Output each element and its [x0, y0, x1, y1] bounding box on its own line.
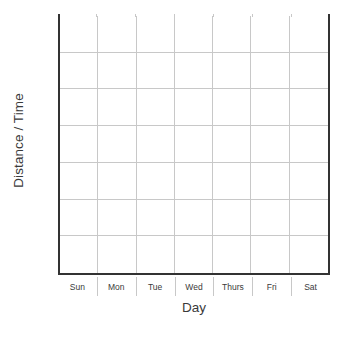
x-tick-label: Tue [136, 277, 175, 296]
x-tick-label-text: Sun [70, 282, 85, 292]
y-axis-title: Distance / Time [0, 0, 36, 280]
axis-tick-top [291, 14, 292, 17]
x-axis-tick-labels: Sun Mon Tue Wed Thurs Fri Sat [58, 277, 330, 296]
gridline-horizontal [60, 52, 328, 53]
blank-grid-chart: Distance / Time Sun Mon Tue Wed Thurs Fr… [0, 0, 354, 337]
x-tick-label: Fri [252, 277, 291, 296]
x-tick-label: Wed [175, 277, 214, 296]
axis-tick-top [135, 14, 136, 17]
axis-tick-top [213, 14, 214, 17]
axis-tick-top [252, 14, 253, 17]
gridline-horizontal [60, 235, 328, 236]
x-tick-label: Sun [58, 277, 97, 296]
x-tick-label-text: Fri [267, 282, 277, 292]
x-tick-label: Mon [97, 277, 136, 296]
x-tick-label: Sat [291, 277, 330, 296]
axis-tick-top [328, 14, 330, 17]
gridline-horizontal [60, 88, 328, 89]
axis-tick-top [58, 14, 60, 17]
x-axis-title: Day [58, 300, 330, 315]
x-tick-label: Thurs [213, 277, 252, 296]
gridline-horizontal [60, 125, 328, 126]
x-tick-label-text: Mon [108, 282, 125, 292]
y-axis-title-label: Distance / Time [11, 93, 26, 188]
gridline-horizontal [60, 199, 328, 200]
axis-tick-top [174, 14, 175, 17]
x-tick-label-text: Thurs [222, 282, 244, 292]
x-tick-label-text: Sat [304, 282, 317, 292]
x-tick-label-text: Wed [185, 282, 202, 292]
plot-area [58, 16, 330, 275]
axis-tick-top [96, 14, 97, 17]
x-tick-label-text: Tue [148, 282, 162, 292]
gridline-horizontal [60, 162, 328, 163]
